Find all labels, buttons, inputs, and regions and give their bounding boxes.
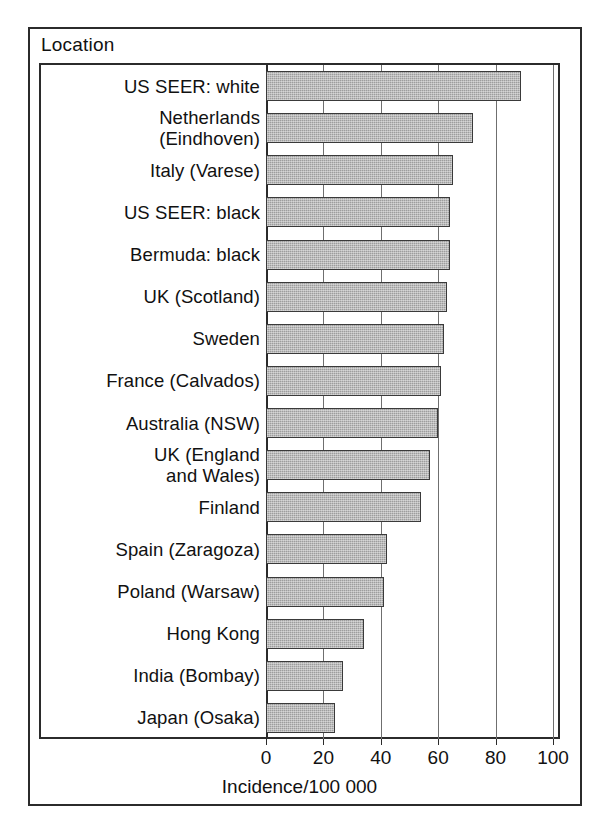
category-label: Spain (Zaragoza) (115, 539, 260, 560)
bar (266, 113, 473, 143)
category-label: UK (Scotland) (144, 286, 260, 307)
xaxis-tick-label: 40 (370, 746, 391, 769)
category-label-column: US SEER: whiteNetherlands (Eindhoven)Ita… (41, 65, 268, 737)
xaxis-tick-label: 20 (313, 746, 334, 769)
bar (266, 492, 421, 522)
bar (266, 197, 450, 227)
axis-group-caption: Location (41, 33, 114, 57)
value-axis: 020406080100 (266, 739, 553, 779)
xaxis-tick-mark (381, 739, 382, 745)
bar (266, 71, 521, 101)
bar (266, 661, 343, 691)
gridline-80 (496, 65, 497, 739)
xaxis-tick-mark (553, 739, 554, 745)
category-label: UK (England and Wales) (154, 444, 260, 486)
bar (266, 703, 335, 733)
category-label: Bermuda: black (130, 244, 260, 265)
category-label: Netherlands (Eindhoven) (159, 107, 260, 149)
bar (266, 155, 453, 185)
category-label: India (Bombay) (133, 665, 260, 686)
category-label: Poland (Warsaw) (117, 581, 260, 602)
bar (266, 366, 441, 396)
category-label: Japan (Osaka) (137, 707, 260, 728)
xaxis-tick-label: 100 (537, 746, 569, 769)
figure-panel: Location US SEER: whiteNetherlands (Eind… (0, 0, 602, 826)
bar (266, 240, 450, 270)
category-label: Hong Kong (167, 623, 260, 644)
xaxis-title: Incidence/100 000 (39, 775, 560, 798)
category-label: Sweden (193, 328, 260, 349)
xaxis-tick-label: 0 (261, 746, 272, 769)
category-label: Finland (199, 497, 260, 518)
bar (266, 619, 364, 649)
xaxis-tick-mark (496, 739, 497, 745)
bar (266, 282, 447, 312)
xaxis-tick-mark (323, 739, 324, 745)
bar (266, 450, 430, 480)
plot-area (266, 65, 553, 739)
category-label: Australia (NSW) (126, 413, 260, 434)
xaxis-tick-label: 80 (485, 746, 506, 769)
category-label: US SEER: white (124, 76, 260, 97)
xaxis-tick-mark (438, 739, 439, 745)
category-label: Italy (Varese) (150, 160, 260, 181)
bar (266, 534, 387, 564)
bar (266, 324, 444, 354)
plot-box: US SEER: whiteNetherlands (Eindhoven)Ita… (39, 63, 560, 739)
category-label: US SEER: black (124, 202, 260, 223)
bar (266, 408, 438, 438)
gridline-100 (553, 65, 554, 739)
xaxis-tick-mark (266, 739, 267, 745)
category-label: France (Calvados) (106, 370, 260, 391)
xaxis-tick-label: 60 (428, 746, 449, 769)
bar (266, 577, 384, 607)
